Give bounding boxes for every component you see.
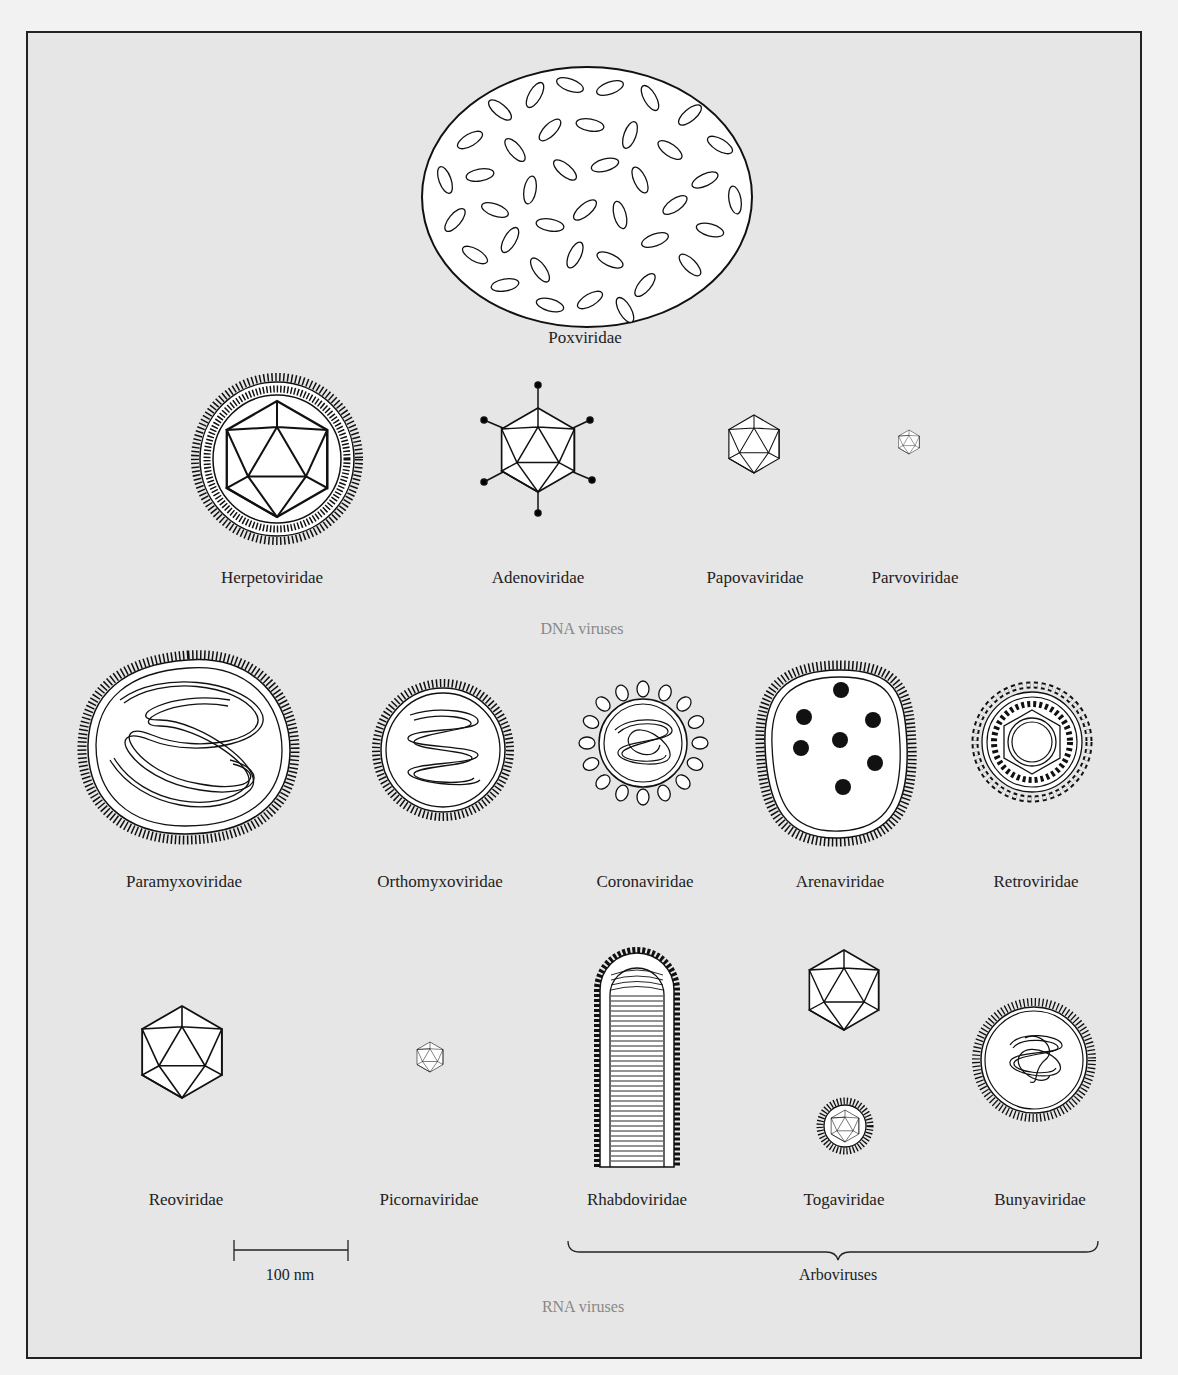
arbovirus-label: Arboviruses bbox=[799, 1266, 877, 1284]
bunyaviridae-icon bbox=[976, 1002, 1092, 1118]
poxviridae-icon bbox=[422, 67, 752, 327]
virus-label: Parvoviridae bbox=[872, 568, 959, 588]
dna-group-label: DNA viruses bbox=[540, 620, 623, 638]
virus-label: Poxviridae bbox=[548, 328, 622, 348]
reoviridae-icon bbox=[142, 1006, 222, 1098]
togaviridae-large-icon bbox=[809, 950, 878, 1030]
virus-label: Adenoviridae bbox=[492, 568, 585, 588]
arbovirus-brace bbox=[568, 1241, 1098, 1260]
virus-illustrations bbox=[0, 0, 1178, 1375]
togaviridae-small-icon bbox=[820, 1101, 870, 1151]
paramyxoviridae-icon bbox=[82, 655, 295, 840]
virus-label: Papovaviridae bbox=[706, 568, 803, 588]
adenoviridae-icon bbox=[481, 382, 595, 516]
virus-label: Coronaviridae bbox=[596, 872, 693, 892]
virus-label: Retroviridae bbox=[994, 872, 1079, 892]
virus-label: Paramyxoviridae bbox=[126, 872, 242, 892]
virus-label: Rhabdoviridae bbox=[587, 1190, 687, 1210]
virus-label: Reoviridae bbox=[149, 1190, 224, 1210]
virus-label: Herpetoviridae bbox=[221, 568, 323, 588]
virus-label: Picornaviridae bbox=[379, 1190, 478, 1210]
papovaviridae-icon bbox=[729, 415, 779, 473]
virus-label: Orthomyxoviridae bbox=[377, 872, 503, 892]
arenaviridae-icon bbox=[760, 665, 912, 842]
picornaviridae-icon bbox=[417, 1042, 443, 1072]
rna-group-label: RNA viruses bbox=[542, 1298, 624, 1316]
orthomyxoviridae-icon bbox=[376, 683, 510, 817]
scale-bar-label: 100 nm bbox=[266, 1266, 314, 1284]
virus-label: Bunyaviridae bbox=[994, 1190, 1086, 1210]
herpetoviridae-icon bbox=[195, 377, 359, 541]
coronaviridae-icon bbox=[579, 681, 708, 805]
rhabdoviridae-icon bbox=[597, 950, 677, 1167]
virus-label: Togaviridae bbox=[804, 1190, 885, 1210]
virus-label: Arenaviridae bbox=[796, 872, 885, 892]
retroviridae-icon bbox=[975, 685, 1089, 799]
scale-bar bbox=[234, 1240, 348, 1261]
parvoviridae-icon bbox=[899, 430, 920, 454]
